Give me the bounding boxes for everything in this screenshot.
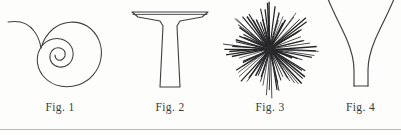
plate-bottom-rule: [0, 129, 401, 130]
figure-2-illustration: [120, 0, 220, 100]
figure-plate: Fig. 1 Fig. 2 Fig. 3: [0, 0, 401, 135]
figure-4-illustration: [320, 0, 401, 100]
flared-cap-column-drawing: [120, 0, 220, 100]
column-outline: [132, 12, 208, 87]
figure-1-illustration: [0, 0, 120, 100]
figure-cell-3: Fig. 3: [220, 0, 320, 135]
flaring-trumpet-funnel-drawing: [320, 0, 401, 100]
figure-2-caption: Fig. 2: [120, 101, 220, 113]
spiral-tail-upper-stroke: [8, 21, 41, 48]
figure-1-caption: Fig. 1: [0, 101, 120, 113]
funnel-right-flare: [368, 0, 396, 86]
figure-cell-2: Fig. 2: [120, 0, 220, 135]
spiral-with-hooked-tail-drawing: [0, 0, 120, 100]
starburst-core: [265, 44, 276, 54]
spiral-whorl-stroke: [37, 22, 101, 87]
figure-cell-4: Fig. 4: [320, 0, 401, 135]
figure-3-illustration: [220, 0, 320, 100]
figure-cell-1: Fig. 1: [0, 0, 120, 135]
funnel-left-flare: [326, 0, 354, 86]
radiating-spine-starburst-drawing: [220, 0, 320, 100]
figure-4-caption: Fig. 4: [320, 101, 401, 113]
figure-3-caption: Fig. 3: [220, 101, 320, 113]
